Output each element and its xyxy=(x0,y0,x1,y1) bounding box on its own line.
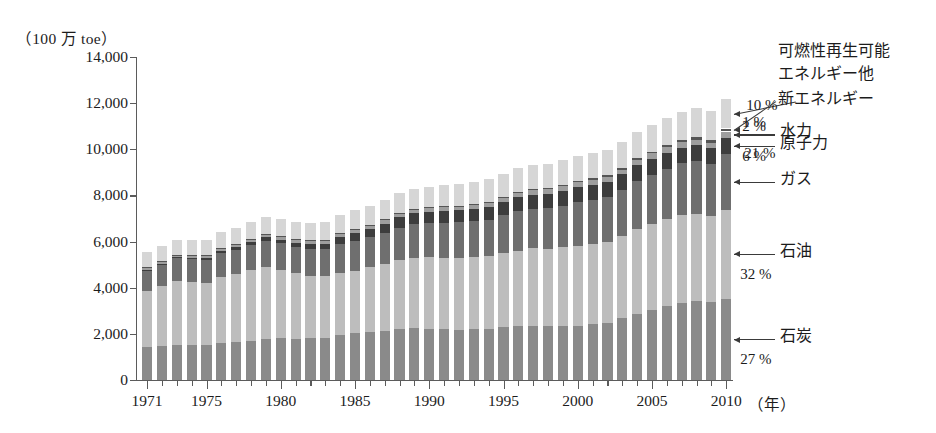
ann-hydro-arrowhead xyxy=(734,132,740,138)
ann-oil-arrowhead xyxy=(734,251,740,257)
ann-oil-leader-line xyxy=(734,254,775,255)
ann-gas-leader-line xyxy=(734,182,775,183)
ann-nuclear-label: 原子力 xyxy=(780,134,828,152)
ann-gas-pct: 21 % xyxy=(744,145,775,162)
ann-new-energy-label: 新エネルギー xyxy=(778,90,874,108)
ann-biofuel-arrowhead xyxy=(734,111,740,117)
ann-coal-label: 石炭 xyxy=(780,327,812,345)
annotation-layer: 10 %可燃性再生可能エネルギー他1 %新エネルギー2 %水力6 %原子力21 … xyxy=(0,0,936,433)
ann-coal-pct: 27 % xyxy=(740,351,771,368)
ann-gas-arrowhead xyxy=(734,179,740,185)
ann-biofuel-label-line2: エネルギー他 xyxy=(778,65,874,83)
ann-biofuel-label-line1: 可燃性再生可能 xyxy=(778,42,890,60)
ann-hydro-pct: 2 % xyxy=(742,118,766,135)
ann-coal-arrowhead xyxy=(734,337,740,343)
ann-gas-label: ガス xyxy=(780,170,812,188)
ann-oil-pct: 32 % xyxy=(740,266,771,283)
ann-oil-label: 石油 xyxy=(780,242,812,260)
stacked-bar-chart: （100 万 toe） 02,0004,0006,0008,00010,0001… xyxy=(0,0,936,433)
ann-nuclear-arrowhead xyxy=(734,143,740,149)
ann-coal-leader-line xyxy=(734,339,775,340)
